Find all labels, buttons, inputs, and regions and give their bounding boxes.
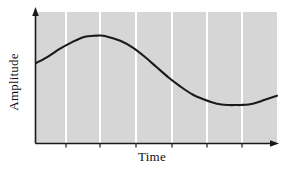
- y-axis-label: Amplitude: [6, 44, 22, 120]
- x-axis-label: Time: [96, 149, 208, 165]
- chart-canvas: [0, 0, 290, 170]
- plot-area: [36, 12, 277, 143]
- y-axis-arrowhead: [32, 7, 39, 16]
- waveform-figure: Amplitude Time: [0, 0, 290, 170]
